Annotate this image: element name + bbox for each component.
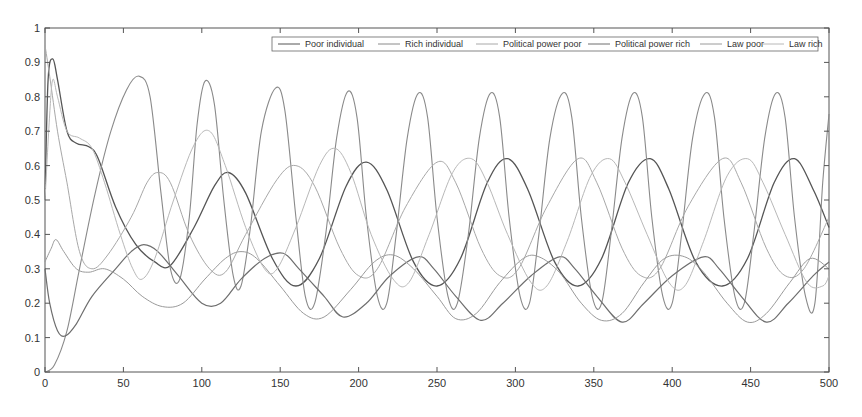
series-lines: [45, 45, 829, 372]
y-tick-label: 0.9: [25, 56, 40, 68]
x-tick-label: 300: [506, 377, 524, 389]
series-line-political-power-poor: [45, 45, 829, 278]
legend-label: Law poor: [727, 39, 764, 49]
y-tick-label: 1: [34, 22, 40, 34]
x-tick-label: 450: [741, 377, 759, 389]
x-tick-label: 250: [428, 377, 446, 389]
x-axis: 050100150200250300350400450500: [42, 28, 838, 389]
legend-label: Law rich: [789, 39, 823, 49]
legend-label: Political power rich: [615, 39, 690, 49]
y-axis: 00.10.20.30.40.50.60.70.80.91: [25, 22, 829, 378]
series-line-law-poor: [45, 240, 829, 323]
x-tick-label: 0: [42, 377, 48, 389]
x-tick-label: 200: [349, 377, 367, 389]
x-tick-label: 100: [193, 377, 211, 389]
series-line-poor-individual: [45, 59, 829, 286]
x-tick-label: 50: [117, 377, 129, 389]
series-line-political-power-rich: [45, 245, 829, 337]
legend-label: Rich individual: [405, 39, 463, 49]
legend-label: Poor individual: [305, 39, 364, 49]
y-tick-label: 0.4: [25, 228, 40, 240]
y-tick-label: 0.8: [25, 91, 40, 103]
legend-label: Political power poor: [503, 39, 582, 49]
legend: Poor individualRich individualPolitical …: [272, 37, 823, 51]
y-tick-label: 0.5: [25, 194, 40, 206]
x-tick-label: 400: [663, 377, 681, 389]
y-tick-label: 0.6: [25, 160, 40, 172]
y-tick-label: 0.7: [25, 125, 40, 137]
y-tick-label: 0.1: [25, 332, 40, 344]
y-tick-label: 0.3: [25, 263, 40, 275]
y-tick-label: 0: [34, 366, 40, 378]
series-line-rich-individual: [45, 76, 829, 372]
x-tick-label: 500: [820, 377, 838, 389]
plot-border: [45, 28, 829, 372]
line-chart: 050100150200250300350400450500 00.10.20.…: [0, 0, 862, 417]
y-tick-label: 0.2: [25, 297, 40, 309]
x-tick-label: 150: [271, 377, 289, 389]
x-tick-label: 350: [585, 377, 603, 389]
plot-area: [45, 28, 829, 372]
